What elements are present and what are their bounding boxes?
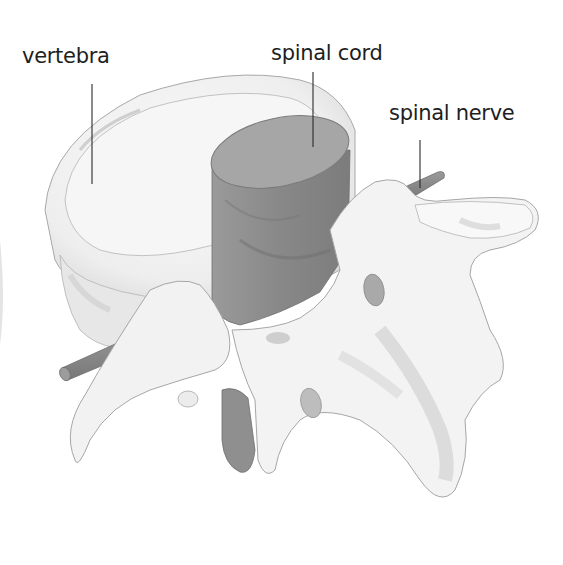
vertebra-illustration: [0, 0, 563, 565]
vertebra-diagram: vertebra spinal cord spinal nerve: [0, 0, 563, 565]
spinal-cord-lower: [222, 389, 255, 473]
spinal-cord-label: spinal cord: [271, 43, 382, 64]
left-edge-shadow: [0, 240, 3, 345]
spinal-nerve-label: spinal nerve: [389, 103, 514, 124]
vertebra-label: vertebra: [22, 46, 110, 67]
